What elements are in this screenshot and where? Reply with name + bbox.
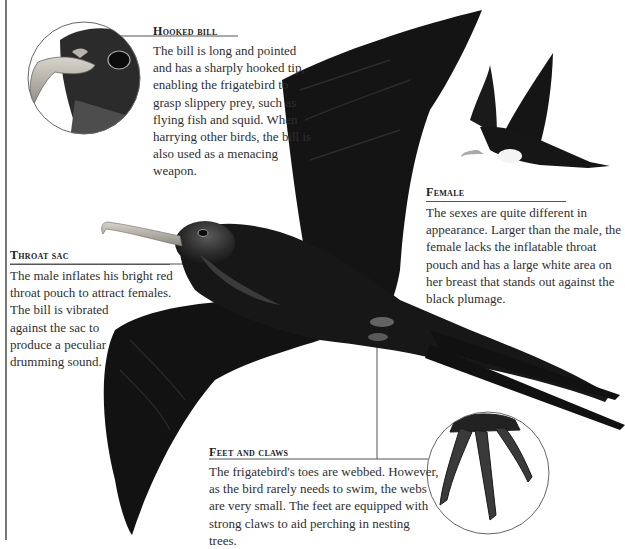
callout-body: The bill is long and pointed and has a s… [153,42,318,180]
callout-feet-and-claws: Feet and claws The frigatebird's toes ar… [209,445,439,549]
callout-heading: Throat sac [10,248,170,265]
callout-body-continued: The bill is vibrated against the sac to … [10,301,110,370]
bill-closeup-inset [28,22,150,140]
callout-body: The frigatebird's toes are webbed. Howev… [209,463,439,549]
callout-hooked-bill: Hooked bill The bill is long and pointed… [153,24,318,180]
callout-heading: Feet and claws [209,445,427,461]
callout-female: Female The sexes are quite different in … [426,185,625,307]
callout-heading: Female [426,185,566,202]
callout-body: The male inflates his bright red throat … [10,267,175,301]
female-frigatebird-illustration [461,53,610,168]
callout-heading: Hooked bill [153,24,239,40]
callout-throat-sac: Throat sac The male inflates his bright … [10,248,175,370]
feet-closeup-inset [427,412,549,534]
callout-body: The sexes are quite different in appeara… [426,204,625,307]
